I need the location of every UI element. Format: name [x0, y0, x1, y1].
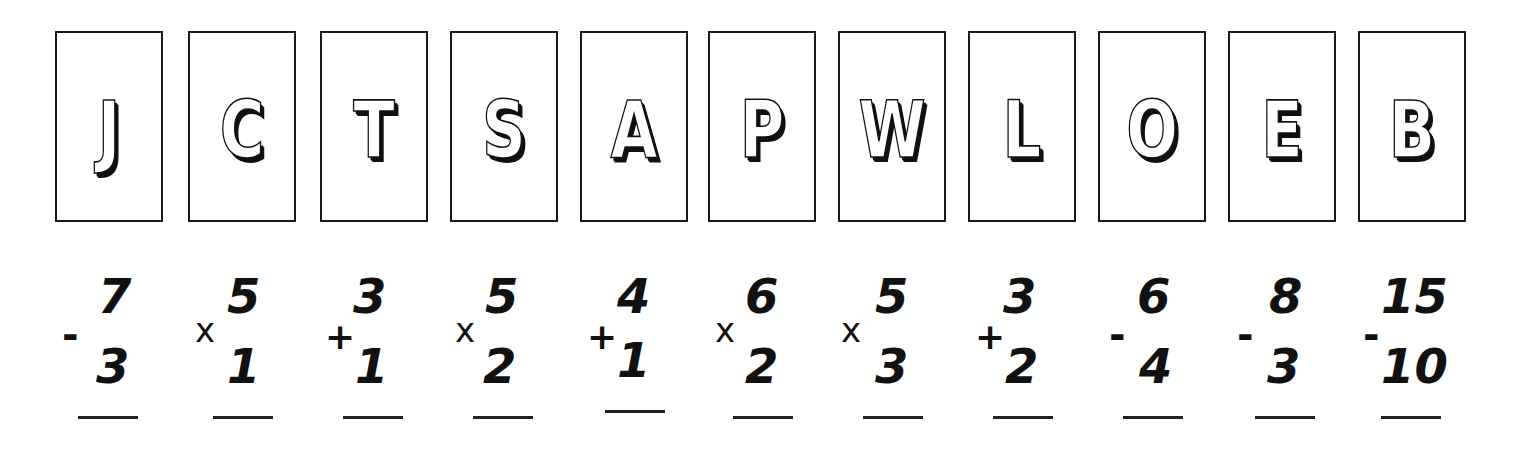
- math-problem: 3 + 2: [965, 262, 1095, 432]
- letter-card: O: [1098, 31, 1206, 222]
- top-number: 6: [1137, 270, 1170, 322]
- answer-line[interactable]: [1123, 416, 1183, 419]
- math-problem: 5 x 1: [185, 262, 315, 432]
- answer-line[interactable]: [733, 416, 793, 419]
- answer-line[interactable]: [1381, 416, 1441, 419]
- card-letter: J: [68, 85, 149, 175]
- bottom-number: 1: [227, 340, 260, 392]
- card-letter: P: [721, 85, 802, 175]
- times-operator: x: [715, 310, 735, 350]
- bottom-number: 4: [1139, 340, 1172, 392]
- card-letter: A: [593, 85, 674, 175]
- answer-line[interactable]: [1255, 416, 1315, 419]
- top-number: 5: [485, 270, 518, 322]
- minus-operator: -: [1363, 312, 1380, 358]
- top-number: 5: [875, 270, 908, 322]
- math-problem: 7 - 3: [50, 262, 180, 432]
- times-operator: x: [195, 310, 215, 350]
- minus-operator: -: [62, 312, 79, 358]
- math-problem: 6 x 2: [705, 262, 835, 432]
- bottom-number: 3: [96, 340, 129, 392]
- math-problem: 8 - 3: [1225, 262, 1355, 432]
- top-number: 5: [227, 270, 260, 322]
- card-letter: W: [851, 85, 932, 175]
- times-operator: x: [841, 310, 861, 350]
- top-number: 7: [98, 270, 131, 322]
- answer-line[interactable]: [78, 416, 138, 419]
- answer-line[interactable]: [213, 416, 273, 419]
- bottom-number: 3: [1267, 340, 1300, 392]
- letter-card: C: [188, 31, 296, 222]
- math-problem: 6 - 4: [1095, 262, 1225, 432]
- bottom-number: 2: [483, 340, 516, 392]
- letter-card: S: [450, 31, 558, 222]
- math-problem: 15 - 10: [1355, 262, 1485, 432]
- bottom-number: 2: [745, 340, 778, 392]
- top-number: 8: [1269, 270, 1302, 322]
- top-number: 4: [617, 270, 650, 322]
- letter-card: E: [1228, 31, 1336, 222]
- card-letter: B: [1371, 85, 1452, 175]
- answer-line[interactable]: [605, 410, 665, 413]
- top-number: 3: [1003, 270, 1036, 322]
- bottom-number: 1: [617, 334, 650, 386]
- plus-operator: +: [975, 316, 1005, 357]
- plus-operator: +: [587, 316, 617, 357]
- top-number: 6: [745, 270, 778, 322]
- card-letter: O: [1111, 85, 1192, 175]
- minus-operator: -: [1237, 312, 1254, 358]
- math-problem: 4 + 1: [575, 262, 705, 432]
- top-number: 3: [353, 270, 386, 322]
- bottom-number: 10: [1381, 340, 1448, 392]
- letter-card: T: [320, 31, 428, 222]
- answer-line[interactable]: [993, 416, 1053, 419]
- plus-operator: +: [325, 316, 355, 357]
- letter-card: J: [55, 31, 163, 222]
- letter-card: W: [838, 31, 946, 222]
- math-problem: 3 + 1: [315, 262, 445, 432]
- answer-line[interactable]: [473, 416, 533, 419]
- minus-operator: -: [1109, 312, 1126, 358]
- math-problem: 5 x 2: [445, 262, 575, 432]
- answer-line[interactable]: [863, 416, 923, 419]
- letter-card: L: [968, 31, 1076, 222]
- card-letter: T: [333, 85, 414, 175]
- bottom-number: 3: [875, 340, 908, 392]
- card-letter: C: [201, 85, 282, 175]
- letter-card: A: [580, 31, 688, 222]
- top-number: 15: [1381, 270, 1448, 322]
- answer-line[interactable]: [343, 416, 403, 419]
- bottom-number: 2: [1005, 340, 1038, 392]
- letter-card: B: [1358, 31, 1466, 222]
- card-letter: L: [981, 85, 1062, 175]
- letter-card: P: [708, 31, 816, 222]
- times-operator: x: [455, 310, 475, 350]
- card-letter: E: [1241, 85, 1322, 175]
- card-letter: S: [463, 85, 544, 175]
- math-problem: 5 x 3: [835, 262, 965, 432]
- bottom-number: 1: [355, 340, 388, 392]
